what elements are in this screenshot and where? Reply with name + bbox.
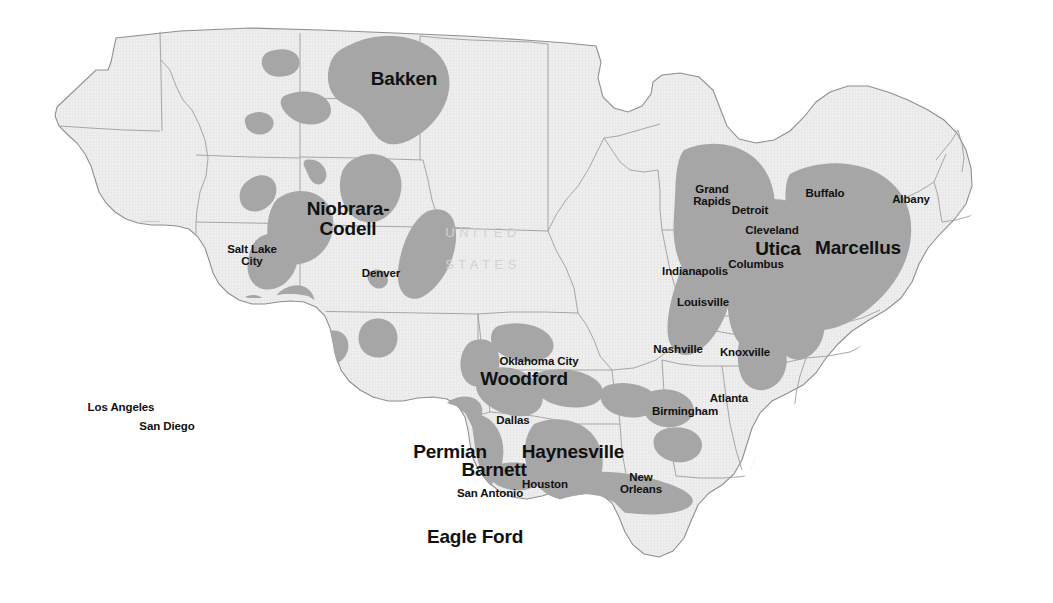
city-label-atlanta[interactable]: Atlanta (710, 393, 748, 405)
play-label-barnett[interactable]: Barnett (461, 460, 526, 479)
shale-region-paradox (220, 295, 272, 360)
city-label-cleveland[interactable]: Cleveland (745, 225, 798, 237)
city-label-houston[interactable]: Houston (522, 479, 568, 491)
play-label-niobrara-codell[interactable]: Niobrara- Codell (307, 199, 390, 239)
shale-region-monterey-north (125, 347, 163, 401)
city-label-birmingham[interactable]: Birmingham (652, 406, 718, 418)
us-map-graphic (0, 0, 1053, 603)
city-label-louisville[interactable]: Louisville (677, 297, 729, 309)
city-label-new-orleans-line2: Orleans (620, 483, 662, 495)
city-label-buffalo[interactable]: Buffalo (806, 188, 845, 200)
shale-region-permian-west (318, 429, 355, 470)
city-label-columbus[interactable]: Columbus (728, 259, 783, 271)
play-label-niobrara-line2: Codell (307, 219, 390, 239)
city-label-grand-rapids[interactable]: Grand Rapids (693, 183, 731, 208)
shale-region-eagleford-west (378, 476, 412, 508)
play-label-niobrara-line1: Niobrara- (307, 199, 390, 219)
shale-region-mancos (358, 318, 397, 357)
city-label-salt-lake-line1: Salt Lake (227, 243, 277, 255)
city-label-detroit[interactable]: Detroit (732, 205, 768, 217)
city-label-san-diego[interactable]: San Diego (139, 421, 194, 433)
city-label-salt-lake-city[interactable]: Salt Lake City (227, 243, 277, 268)
city-label-san-antonio[interactable]: San Antonio (457, 488, 523, 500)
city-label-albany[interactable]: Albany (892, 194, 930, 206)
shale-plays-map: UNITED STATES Bakken Niobrara- Codell Wo… (0, 0, 1053, 603)
play-label-utica[interactable]: Utica (755, 239, 800, 258)
play-label-woodford[interactable]: Woodford (480, 369, 568, 388)
city-label-grand-rapids-line1: Grand (693, 183, 731, 195)
city-label-indianapolis[interactable]: Indianapolis (662, 266, 728, 278)
play-label-marcellus[interactable]: Marcellus (815, 238, 901, 257)
play-label-bakken[interactable]: Bakken (371, 69, 437, 88)
city-label-grand-rapids-line2: Rapids (693, 195, 731, 207)
shale-region-montana-patch (262, 49, 300, 77)
country-label-united: UNITED (445, 226, 520, 239)
city-label-salt-lake-line2: City (227, 255, 277, 267)
shale-region-permian-nm (300, 399, 332, 430)
shale-region-nm-north (305, 373, 342, 409)
play-label-eagle-ford[interactable]: Eagle Ford (427, 527, 523, 546)
city-label-oklahoma-city[interactable]: Oklahoma City (499, 356, 578, 368)
city-label-new-orleans-line1: New (620, 471, 662, 483)
city-label-new-orleans[interactable]: New Orleans (620, 471, 662, 496)
city-label-nashville[interactable]: Nashville (653, 344, 703, 356)
country-label-states: STATES (445, 258, 521, 271)
city-label-dallas[interactable]: Dallas (496, 415, 529, 427)
city-label-knoxville[interactable]: Knoxville (720, 347, 770, 359)
city-label-los-angeles[interactable]: Los Angeles (88, 402, 155, 414)
play-label-haynesville[interactable]: Haynesville (522, 442, 624, 461)
city-label-denver[interactable]: Denver (362, 268, 400, 280)
